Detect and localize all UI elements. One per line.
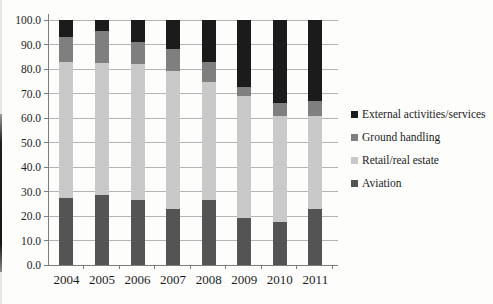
- y-axis-label: 20.0: [0, 209, 41, 223]
- legend-label-ground-handling: Ground handling: [362, 130, 440, 144]
- gridline: [48, 216, 338, 217]
- legend-item-retail-real-estate: Retail/real estate: [351, 153, 486, 167]
- bar-segment-aviation-2006: [131, 200, 145, 265]
- bar-segment-retail-real-estate-2005: [95, 63, 109, 195]
- bar-segment-aviation-2008: [202, 200, 216, 265]
- chart-figure: 0.010.020.030.040.050.060.070.080.090.01…: [0, 0, 493, 304]
- y-axis-label: 10.0: [0, 234, 41, 248]
- x-axis-label: 2006: [118, 272, 158, 287]
- bar-segment-retail-real-estate-2007: [166, 71, 180, 208]
- bar-segment-ground-handling-2004: [59, 37, 73, 62]
- bar-segment-aviation-2004: [59, 198, 73, 265]
- x-axis-label: 2005: [82, 272, 122, 287]
- x-axis-tick: [261, 266, 262, 269]
- bar-segment-ground-handling-2008: [202, 62, 216, 83]
- bar-segment-aviation-2007: [166, 209, 180, 265]
- y-axis-line: [48, 14, 49, 266]
- bar-segment-retail-real-estate-2006: [131, 64, 145, 200]
- legend: External activities/services Ground hand…: [351, 107, 486, 199]
- x-axis-label: 2011: [295, 272, 335, 287]
- legend-item-aviation: Aviation: [351, 176, 486, 190]
- gridline: [48, 44, 338, 45]
- bar-segment-retail-real-estate-2008: [202, 82, 216, 200]
- bar-segment-external-activities-services-2007: [166, 20, 180, 49]
- y-axis-label: 40.0: [0, 160, 41, 174]
- bar-segment-aviation-2005: [95, 195, 109, 265]
- gridline: [48, 167, 338, 168]
- x-axis-tick: [154, 266, 155, 269]
- bar-segment-external-activities-services-2004: [59, 20, 73, 37]
- y-axis-label: 90.0: [0, 38, 41, 52]
- x-axis-label: 2008: [189, 272, 229, 287]
- x-axis-tick: [296, 266, 297, 269]
- bar-segment-external-activities-services-2008: [202, 20, 216, 62]
- x-axis-label: 2007: [153, 272, 193, 287]
- gridline: [48, 240, 338, 241]
- bar-segment-retail-real-estate-2010: [273, 116, 287, 223]
- gridline: [48, 20, 338, 21]
- gridline: [48, 93, 338, 94]
- y-axis-label: 60.0: [0, 111, 41, 125]
- bar-segment-ground-handling-2009: [237, 87, 251, 96]
- bar-segment-aviation-2011: [308, 209, 322, 265]
- gridline: [48, 69, 338, 70]
- legend-item-ground-handling: Ground handling: [351, 130, 486, 144]
- legend-swatch-ground-handling: [351, 134, 358, 141]
- x-axis-line: [48, 265, 338, 266]
- scan-artifact-left-edge-dark: [0, 114, 2, 272]
- bar-segment-external-activities-services-2009: [237, 20, 251, 87]
- x-axis-label: 2010: [260, 272, 300, 287]
- bar-segment-external-activities-services-2006: [131, 20, 145, 42]
- x-axis-tick: [83, 266, 84, 269]
- bar-segment-ground-handling-2010: [273, 103, 287, 115]
- bar-segment-ground-handling-2011: [308, 101, 322, 116]
- y-axis-label: 70.0: [0, 87, 41, 101]
- bar-segment-retail-real-estate-2004: [59, 62, 73, 198]
- bar-segment-ground-handling-2006: [131, 42, 145, 64]
- x-axis-tick: [225, 266, 226, 269]
- legend-swatch-aviation: [351, 180, 358, 187]
- bar-segment-aviation-2010: [273, 222, 287, 265]
- bar-segment-ground-handling-2005: [95, 31, 109, 63]
- y-axis-label: 80.0: [0, 62, 41, 76]
- bar-segment-ground-handling-2007: [166, 49, 180, 71]
- y-axis-label: 0.0: [0, 258, 41, 272]
- bar-segment-external-activities-services-2005: [95, 20, 109, 31]
- gridline: [48, 142, 338, 143]
- bar-segment-retail-real-estate-2009: [237, 96, 251, 219]
- y-axis-label: 50.0: [0, 136, 41, 150]
- x-axis-tick: [332, 266, 333, 269]
- legend-label-external-activities: External activities/services: [362, 107, 486, 121]
- x-axis-tick: [119, 266, 120, 269]
- bar-segment-retail-real-estate-2011: [308, 116, 322, 209]
- bar-segment-aviation-2009: [237, 218, 251, 265]
- legend-swatch-retail-real-estate: [351, 157, 358, 164]
- legend-label-aviation: Aviation: [362, 176, 401, 190]
- x-axis-label: 2009: [224, 272, 264, 287]
- x-axis-label: 2004: [46, 272, 86, 287]
- x-axis-tick: [190, 266, 191, 269]
- gridline: [48, 118, 338, 119]
- legend-item-external-activities: External activities/services: [351, 107, 486, 121]
- legend-label-retail-real-estate: Retail/real estate: [362, 153, 439, 167]
- bar-segment-external-activities-services-2010: [273, 20, 287, 103]
- legend-swatch-external-activities: [351, 111, 358, 118]
- y-axis-label: 30.0: [0, 185, 41, 199]
- gridline: [48, 191, 338, 192]
- y-axis-label: 100.0: [0, 13, 41, 27]
- bar-segment-external-activities-services-2011: [308, 20, 322, 101]
